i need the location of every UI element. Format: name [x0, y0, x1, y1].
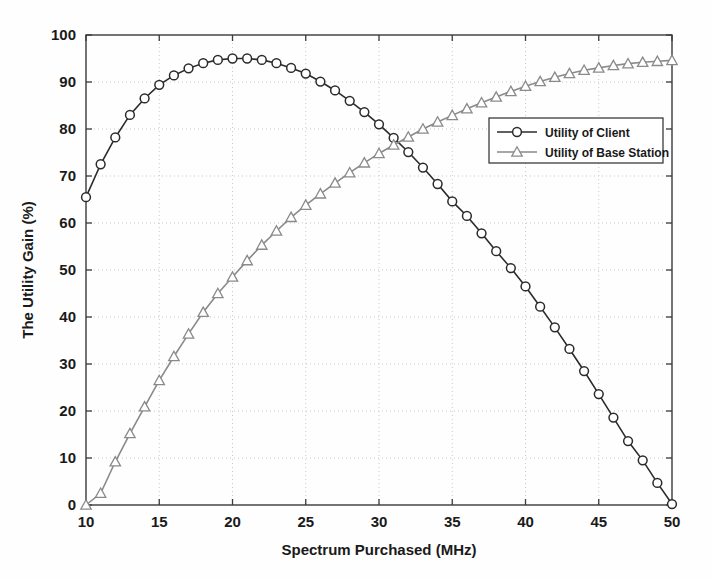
data-point-marker-circle	[609, 413, 618, 422]
y-tick-label: 80	[59, 120, 76, 137]
data-point-marker-circle	[126, 111, 135, 120]
legend-label: Utility of Client	[545, 126, 630, 140]
data-point-marker-circle	[580, 367, 589, 376]
data-point-marker-circle	[594, 390, 603, 399]
data-point-marker-circle	[653, 479, 662, 488]
data-point-marker-circle	[492, 247, 501, 256]
chart-legend[interactable]: Utility of ClientUtility of Base Station	[489, 118, 669, 163]
data-point-marker-circle	[199, 59, 208, 68]
data-point-marker-circle	[404, 148, 413, 157]
x-axis-label: Spectrum Purchased (MHz)	[281, 541, 476, 558]
data-point-marker-circle	[96, 160, 105, 169]
data-point-marker-circle	[257, 56, 266, 65]
x-tick-label: 40	[517, 513, 534, 530]
y-tick-label: 0	[68, 496, 76, 513]
x-tick-label: 45	[590, 513, 607, 530]
data-point-marker-circle	[301, 69, 310, 78]
y-tick-label: 60	[59, 214, 76, 231]
y-tick-label: 30	[59, 355, 76, 372]
data-point-marker-circle	[448, 197, 457, 206]
data-point-marker-circle	[463, 212, 472, 221]
x-tick-label: 15	[151, 513, 168, 530]
data-point-marker-circle	[243, 54, 252, 63]
data-point-marker-circle	[513, 128, 522, 137]
data-point-marker-circle	[140, 94, 149, 103]
data-point-marker-circle	[506, 264, 515, 273]
data-point-marker-circle	[565, 345, 574, 354]
data-point-marker-circle	[360, 108, 369, 117]
data-point-marker-circle	[624, 437, 633, 446]
data-point-marker-circle	[536, 302, 545, 311]
data-point-marker-circle	[272, 59, 281, 68]
figure-background	[0, 0, 711, 578]
data-point-marker-circle	[668, 500, 677, 509]
x-tick-label: 10	[78, 513, 95, 530]
x-tick-label: 35	[444, 513, 461, 530]
y-tick-label: 40	[59, 308, 76, 325]
y-tick-label: 50	[59, 261, 76, 278]
data-point-marker-circle	[184, 64, 193, 73]
data-point-marker-circle	[419, 163, 428, 172]
data-point-marker-circle	[170, 71, 179, 80]
data-point-marker-circle	[111, 133, 120, 142]
x-tick-label: 20	[224, 513, 241, 530]
y-axis-label: The Utility Gain (%)	[19, 201, 36, 339]
y-tick-label: 10	[59, 449, 76, 466]
legend-label: Utility of Base Station	[545, 146, 669, 160]
chart-figure: 101520253035404550 010203040506070809010…	[0, 0, 711, 578]
x-tick-label: 30	[371, 513, 388, 530]
data-point-marker-circle	[345, 96, 354, 105]
y-tick-label: 20	[59, 402, 76, 419]
data-point-marker-circle	[213, 56, 222, 65]
data-point-marker-circle	[316, 77, 325, 86]
y-tick-label: 70	[59, 167, 76, 184]
data-point-marker-circle	[550, 323, 559, 332]
data-point-marker-circle	[477, 229, 486, 238]
data-point-marker-circle	[521, 282, 530, 291]
data-point-marker-circle	[155, 80, 164, 89]
data-point-marker-circle	[287, 64, 296, 73]
data-point-marker-circle	[228, 54, 237, 63]
data-point-marker-circle	[331, 86, 340, 95]
x-tick-label: 50	[664, 513, 681, 530]
data-point-marker-circle	[375, 120, 384, 129]
data-point-marker-circle	[82, 193, 91, 202]
data-point-marker-circle	[638, 456, 647, 465]
data-point-marker-circle	[433, 180, 442, 189]
y-tick-label: 100	[51, 26, 76, 43]
utility-gain-line-chart: 101520253035404550 010203040506070809010…	[0, 0, 711, 578]
y-tick-label: 90	[59, 73, 76, 90]
x-tick-label: 25	[297, 513, 314, 530]
